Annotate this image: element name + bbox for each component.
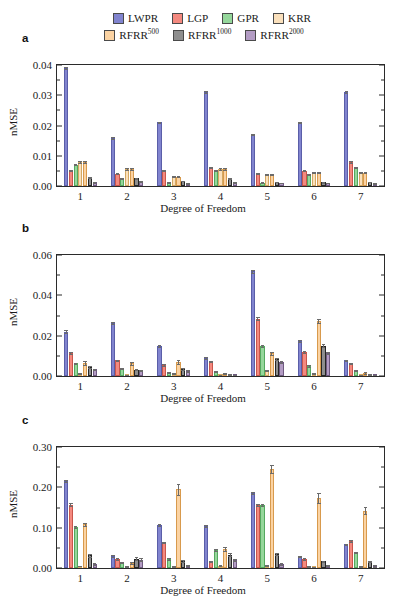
x-tick-label-b-6: 7 xyxy=(358,380,364,392)
error-bar-cap xyxy=(307,567,311,568)
bar-a-dof5-lgp xyxy=(256,174,260,186)
bar-a-dof7-lgp xyxy=(349,162,353,186)
error-bar-cap xyxy=(251,135,255,136)
y-minor-tick xyxy=(57,110,60,111)
y-tick-right-b-2 xyxy=(379,295,384,296)
x-tick-label-b-1: 2 xyxy=(124,380,130,392)
error-bar-cap xyxy=(167,183,171,184)
error-bar-cap xyxy=(228,553,232,554)
error-bar xyxy=(365,507,366,514)
error-bar-cap xyxy=(322,562,326,563)
error-bar-cap xyxy=(130,564,134,565)
error-bar-cap xyxy=(167,373,171,374)
error-bar-cap xyxy=(349,542,353,543)
y-tick-a-3 xyxy=(57,95,62,96)
error-bar-cap xyxy=(368,375,372,376)
error-bar-cap xyxy=(83,365,87,366)
x-tick-label-b-5: 6 xyxy=(311,380,317,392)
error-bar xyxy=(178,484,179,495)
x-tick-label-c-5: 6 xyxy=(311,572,317,584)
x-tick-label-a-0: 1 xyxy=(78,190,84,202)
legend-item-gpr[interactable]: GPR xyxy=(222,13,259,24)
bar-b-dof5-lgp xyxy=(256,319,260,376)
bar-b-dof5-rfrr500 xyxy=(270,353,274,376)
legend-item-lwpr[interactable]: LWPR xyxy=(113,13,158,24)
error-bar-cap xyxy=(359,173,363,174)
bar-a-dof1-rfrr500 xyxy=(83,162,87,186)
bar-b-dof6-lwpr xyxy=(298,341,302,376)
bar-a-dof5-krr xyxy=(265,175,269,186)
error-bar-cap xyxy=(111,322,115,323)
x-tick-label-c-2: 3 xyxy=(171,572,177,584)
plot-area-b: 0.000.020.040.061234567 xyxy=(56,254,385,377)
legend-label: KRR xyxy=(288,13,311,24)
error-bar-cap xyxy=(233,559,237,560)
error-bar-cap xyxy=(209,562,213,563)
bar-c-dof5-lwpr xyxy=(251,493,255,568)
y-tick-label-b-0: 0.00 xyxy=(33,370,52,382)
legend-item-rfrr1000[interactable]: RFRR1000 xyxy=(173,30,231,41)
x-tick-label-b-2: 3 xyxy=(171,380,177,392)
error-bar-cap xyxy=(298,340,302,341)
panel-label-b: b xyxy=(22,222,29,234)
error-bar-cap xyxy=(158,123,162,124)
error-bar-cap xyxy=(317,503,321,504)
bar-a-dof1-gpr xyxy=(74,165,78,186)
y-minor-tick xyxy=(381,547,384,548)
error-bar-cap xyxy=(139,558,143,559)
bar-a-dof4-rfrr500 xyxy=(223,169,227,186)
plot-area-a: 0.000.010.020.030.041234567 xyxy=(56,64,385,187)
bar-b-dof7-lwpr xyxy=(344,360,348,376)
error-bar-cap xyxy=(345,545,349,546)
bar-a-dof4-lwpr xyxy=(204,92,208,186)
bar-b-dof2-lgp xyxy=(115,360,119,376)
error-bar-cap xyxy=(162,543,166,544)
bar-c-dof7-rfrr500 xyxy=(363,511,367,568)
bar-a-dof4-gpr xyxy=(214,171,218,186)
error-bar-cap xyxy=(312,567,316,568)
bar-c-dof1-lgp xyxy=(69,505,73,568)
y-minor-tick xyxy=(57,315,60,316)
error-bar-cap xyxy=(326,183,330,184)
error-bar-cap xyxy=(88,554,92,555)
y-tick-right-b-0 xyxy=(379,376,384,377)
error-bar-cap xyxy=(64,333,68,334)
error-bar-cap xyxy=(270,465,274,466)
y-tick-right-a-4 xyxy=(379,65,384,66)
error-bar-cap xyxy=(177,484,181,485)
error-bar-cap xyxy=(364,514,368,515)
error-bar-cap xyxy=(373,375,377,376)
error-bar-cap xyxy=(120,369,124,370)
y-tick-a-0 xyxy=(57,186,62,187)
error-bar-cap xyxy=(354,553,358,554)
error-bar-cap xyxy=(120,179,124,180)
error-bar-cap xyxy=(322,183,326,184)
legend-item-lgp[interactable]: LGP xyxy=(172,13,208,24)
y-tick-c-0 xyxy=(57,568,62,569)
plot-b: 0.000.020.040.061234567 xyxy=(56,254,385,377)
error-bar-cap xyxy=(186,372,190,373)
legend-item-rfrr2000[interactable]: RFRR2000 xyxy=(245,30,303,41)
error-bar-cap xyxy=(125,567,129,568)
error-bar-cap xyxy=(186,566,190,567)
bar-a-dof5-lwpr xyxy=(251,135,255,186)
bar-c-dof5-rfrr500 xyxy=(270,469,274,568)
error-bar-cap xyxy=(219,170,223,171)
legend-item-krr[interactable]: KRR xyxy=(273,13,311,24)
panel-label-a: a xyxy=(22,32,28,44)
error-bar-cap xyxy=(177,360,181,361)
legend-item-rfrr500[interactable]: RFRR500 xyxy=(104,30,159,41)
error-bar-cap xyxy=(364,507,368,508)
error-bar-cap xyxy=(359,567,363,568)
error-bar-cap xyxy=(93,183,97,184)
error-bar-cap xyxy=(78,566,82,567)
bar-a-dof6-lwpr xyxy=(298,122,302,186)
y-tick-b-0 xyxy=(57,376,62,377)
x-axis-label-b: Degree of Freedom xyxy=(0,392,406,404)
x-axis-label-c: Degree of Freedom xyxy=(0,584,406,596)
y-axis-label-b: nMSE xyxy=(7,298,19,326)
y-tick-a-2 xyxy=(57,125,62,126)
bar-a-dof1-krr xyxy=(78,162,82,186)
error-bar-cap xyxy=(345,361,349,362)
error-bar-cap xyxy=(135,560,139,561)
